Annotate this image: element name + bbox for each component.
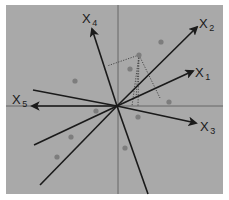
biplot-diagram: X1X2X3X4X5 bbox=[0, 0, 229, 200]
data-point bbox=[127, 66, 132, 71]
data-point bbox=[166, 99, 171, 104]
data-point bbox=[68, 134, 73, 139]
projected-data-point bbox=[136, 52, 141, 57]
data-point bbox=[54, 154, 59, 159]
data-point bbox=[158, 39, 163, 44]
data-point bbox=[135, 114, 140, 119]
data-point bbox=[122, 145, 127, 150]
data-point bbox=[72, 78, 77, 83]
data-point bbox=[93, 108, 98, 113]
